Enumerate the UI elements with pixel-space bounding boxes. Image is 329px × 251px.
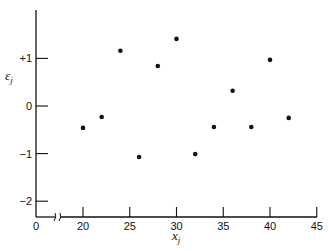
x-tick-label: 35 bbox=[217, 220, 229, 232]
data-point bbox=[118, 48, 123, 53]
y-tick-label: −2 bbox=[19, 195, 32, 207]
axis-break-icon bbox=[54, 213, 61, 221]
data-point bbox=[99, 115, 104, 120]
y-ticks: +10−1−2 bbox=[19, 52, 48, 207]
data-point bbox=[286, 116, 291, 121]
data-point bbox=[193, 152, 198, 157]
data-point bbox=[174, 37, 179, 42]
x-ticks: 0202530354045 bbox=[33, 207, 323, 232]
x-tick-label: 25 bbox=[124, 220, 136, 232]
y-tick-label: +1 bbox=[19, 52, 32, 64]
x-tick-label: 20 bbox=[77, 220, 89, 232]
scatter-chart: +10−1−2 0202530354045 εj xj bbox=[0, 0, 329, 251]
x-tick-label: 40 bbox=[264, 220, 276, 232]
y-axis-label: εj bbox=[5, 68, 13, 85]
data-point bbox=[268, 58, 273, 63]
data-point bbox=[156, 64, 161, 69]
x-tick-label: 45 bbox=[311, 220, 323, 232]
data-points bbox=[81, 37, 291, 160]
data-point bbox=[249, 125, 254, 130]
x-tick-label: 0 bbox=[33, 220, 39, 232]
data-point bbox=[137, 155, 142, 160]
data-point bbox=[230, 88, 235, 93]
y-tick-label: −1 bbox=[19, 148, 32, 160]
data-point bbox=[81, 126, 86, 131]
data-point bbox=[212, 125, 217, 130]
y-tick-label: 0 bbox=[26, 100, 32, 112]
